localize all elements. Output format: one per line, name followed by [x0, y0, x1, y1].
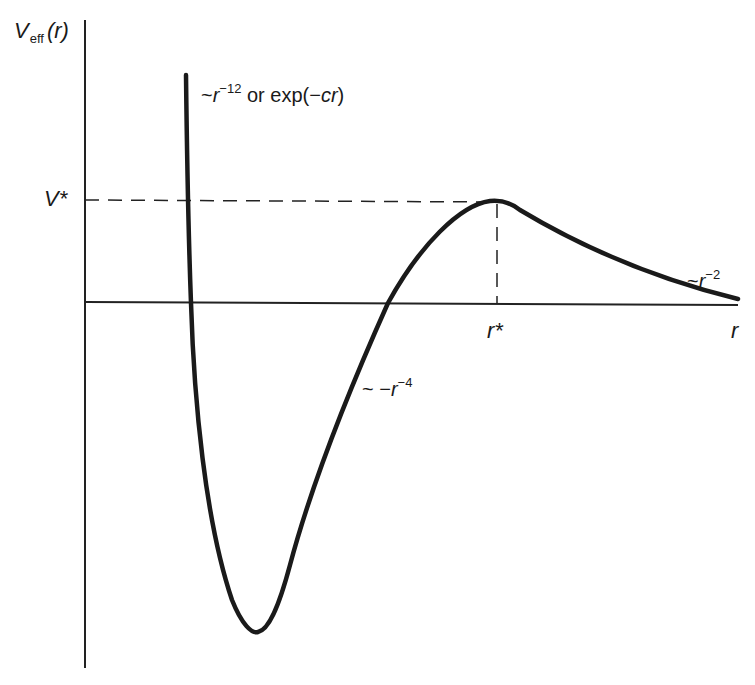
long-range-annotation: ~r−2 [687, 268, 720, 291]
v-star-label: V* [44, 188, 67, 210]
y-axis-symbol: V [14, 18, 29, 43]
short-range-annotation: ~r−12 or exp(−cr) [201, 82, 344, 105]
r-star-label: r* [487, 320, 503, 342]
y-axis-label: Veff(r) [14, 20, 69, 45]
x-axis [85, 302, 738, 305]
y-axis-argument: (r) [47, 18, 69, 43]
potential-plot [0, 0, 755, 685]
v-star-dashed-line [85, 200, 495, 202]
x-axis-label: r [731, 320, 738, 342]
mid-range-annotation: ~ −r−4 [362, 376, 412, 399]
potential-curve [186, 75, 738, 632]
tilde-symbol: ~ [201, 84, 213, 106]
y-axis-subscript: eff [30, 31, 44, 46]
